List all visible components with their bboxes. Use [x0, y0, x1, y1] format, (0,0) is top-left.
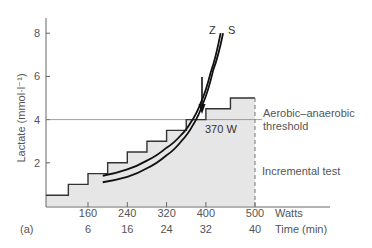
- x-tick-label: 500: [246, 208, 264, 219]
- x-tick-label-secondary: 6: [85, 224, 91, 235]
- y-tick-label: 2: [34, 157, 40, 168]
- x-tick-label: 400: [197, 208, 215, 219]
- series-label-z: Z: [209, 25, 216, 36]
- y-axis-label: Lactate (mmol·l⁻¹): [15, 73, 28, 162]
- y-tick-label: 6: [34, 71, 40, 82]
- x-tick-label-secondary: 32: [200, 224, 212, 235]
- lactate-chart: Lactate (mmol·l⁻¹) 2468 160240320400500 …: [0, 0, 372, 248]
- x-tick-label: 240: [118, 208, 136, 219]
- y-tick-label: 8: [34, 28, 40, 39]
- x-tick-label-secondary: 40: [249, 224, 261, 235]
- threshold-label-line1: Aerobic–anaerobic: [263, 108, 355, 119]
- staircase-fill: [46, 98, 255, 206]
- x-axis-label-secondary: Time (min): [275, 224, 327, 235]
- x-tick-label-secondary: 24: [160, 224, 172, 235]
- x-tick-label-secondary: 16: [121, 224, 133, 235]
- x-axis-label: Watts: [275, 208, 303, 219]
- incremental-test-label: Incremental test: [262, 166, 340, 177]
- threshold-power-label: 370 W: [205, 124, 237, 135]
- y-tick-label: 4: [34, 114, 40, 125]
- chart-canvas: [0, 0, 372, 248]
- x-tick-label: 320: [157, 208, 175, 219]
- x-tick-label: 160: [79, 208, 97, 219]
- series-label-s: S: [228, 25, 235, 36]
- threshold-label-line2: threshold: [263, 121, 308, 132]
- panel-label: (a): [20, 224, 33, 235]
